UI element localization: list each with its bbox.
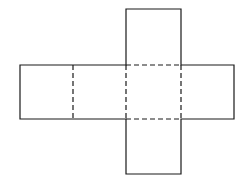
solid-outline [20,9,234,174]
prism-net-diagram [0,0,248,187]
fold-lines [73,65,181,119]
outer-edge [20,9,234,174]
